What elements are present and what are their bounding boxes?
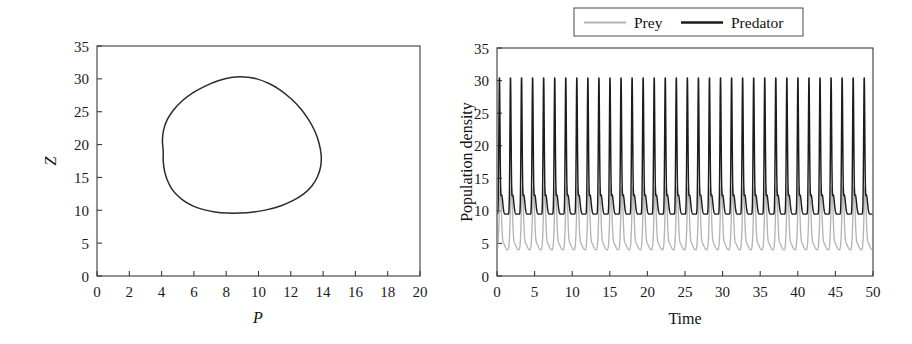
y-tick-label: 30	[474, 73, 489, 89]
x-axis-title: Time	[668, 310, 701, 327]
x-tick-label: 20	[640, 284, 655, 300]
x-tick-label: 14	[316, 284, 332, 300]
y-tick-label: 25	[74, 104, 89, 120]
y-tick-label: 25	[474, 106, 489, 122]
y-tick-labels: 05101520253035	[74, 39, 89, 285]
phase-portrait-panel: 02468101214161820 05101520253035 P Z	[0, 0, 456, 344]
y-tick-label: 15	[74, 170, 89, 186]
x-tick-label: 6	[190, 284, 198, 300]
x-tick-label: 10	[251, 284, 266, 300]
y-tick-label: 10	[74, 203, 89, 219]
y-tick-label: 0	[482, 269, 490, 285]
y-tick-label: 20	[474, 138, 489, 154]
x-tick-label: 0	[93, 284, 101, 300]
y-tick-label: 35	[74, 39, 89, 55]
x-axis-title: P	[252, 309, 263, 326]
x-tick-label: 20	[413, 284, 428, 300]
x-tick-label: 10	[565, 284, 580, 300]
x-tick-label: 15	[602, 284, 617, 300]
x-tick-label: 8	[222, 284, 230, 300]
y-tick-label: 10	[474, 203, 489, 219]
x-tick-label: 25	[678, 284, 693, 300]
x-tick-label: 40	[790, 284, 805, 300]
time-series-panel: 05101520253035404550 05101520253035 Prey…	[456, 0, 912, 344]
figure-root: 02468101214161820 05101520253035 P Z 051…	[0, 0, 912, 344]
legend-label-prey: Prey	[634, 14, 663, 31]
y-axis-title: Population density	[458, 102, 476, 222]
x-tick-label: 45	[828, 284, 843, 300]
y-axis-title: Z	[42, 155, 59, 165]
y-tick-label: 5	[82, 236, 90, 252]
x-tick-labels: 02468101214161820	[93, 284, 427, 300]
y-tick-label: 30	[74, 71, 89, 87]
y-tick-label: 35	[474, 41, 489, 57]
plot-frame	[97, 46, 420, 276]
x-tick-label: 50	[866, 284, 881, 300]
phase-portrait-svg: 02468101214161820 05101520253035 P Z	[0, 0, 456, 344]
x-tick-label: 5	[531, 284, 539, 300]
x-tick-label: 2	[126, 284, 134, 300]
y-tick-label: 20	[74, 137, 89, 153]
x-tick-label: 4	[158, 284, 166, 300]
legend: Prey Predator	[574, 8, 803, 36]
x-tick-label: 35	[753, 284, 768, 300]
x-tick-label: 18	[380, 284, 395, 300]
y-tick-label: 15	[474, 171, 489, 187]
y-tick-labels: 05101520253035	[474, 41, 489, 285]
x-tick-label: 12	[283, 284, 298, 300]
y-tick-label: 0	[82, 269, 90, 285]
y-tick-label: 5	[482, 236, 490, 252]
x-tick-label: 16	[348, 284, 364, 300]
x-tick-label: 30	[715, 284, 730, 300]
legend-label-predator: Predator	[731, 14, 784, 31]
x-tick-label: 0	[493, 284, 501, 300]
time-series-svg: 05101520253035404550 05101520253035 Prey…	[456, 0, 912, 344]
x-tick-labels: 05101520253035404550	[493, 284, 880, 300]
